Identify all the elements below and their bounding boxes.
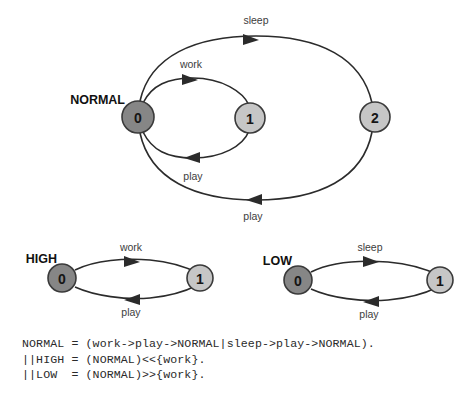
edge-label-normal-work: work [179, 58, 203, 70]
process-label-high: HIGH [26, 252, 57, 266]
arrowhead-normal-play-outer [246, 194, 262, 205]
edge-label-low-play: play [359, 308, 379, 320]
node-high-0[interactable]: 0 [48, 264, 76, 292]
edge-label-normal-sleep: sleep [243, 14, 268, 26]
diagram-normal: NORMAL work play sleep play 0 1 2 [70, 14, 390, 222]
arrowhead-normal-play-inner [184, 152, 200, 163]
node-high-1-label: 1 [196, 271, 204, 287]
node-low-1-label: 1 [436, 273, 444, 289]
node-low-0[interactable]: 0 [284, 266, 312, 294]
edge-label-high-play: play [121, 306, 141, 318]
node-normal-2-label: 2 [371, 110, 379, 126]
diagram-high: HIGH work play 0 1 [26, 241, 213, 318]
edge-normal-0-to-2-sleep [140, 36, 372, 103]
arrowhead-high-play [124, 294, 140, 305]
arrowhead-low-play [363, 296, 379, 307]
node-high-0-label: 0 [58, 271, 66, 287]
node-normal-1-label: 1 [246, 111, 254, 127]
node-normal-0[interactable]: 0 [122, 101, 154, 133]
node-low-1[interactable]: 1 [427, 267, 453, 293]
diagram-low: LOW sleep play 0 1 [263, 241, 453, 320]
node-low-0-label: 0 [294, 273, 302, 289]
node-normal-1[interactable]: 1 [235, 103, 265, 133]
fsp-code-block: NORMAL = (work->play->NORMAL|sleep->play… [22, 336, 375, 383]
arrowhead-low-sleep [363, 256, 379, 267]
edge-label-normal-play-outer: play [243, 210, 263, 222]
edge-label-low-sleep: sleep [357, 241, 382, 253]
process-label-low: LOW [263, 254, 292, 268]
node-normal-2[interactable]: 2 [360, 102, 390, 132]
edge-normal-0-to-1-work [143, 78, 249, 105]
edge-label-normal-play-inner: play [183, 170, 203, 182]
arrowhead-high-work [124, 256, 140, 267]
node-normal-0-label: 0 [134, 110, 142, 126]
process-label-normal: NORMAL [70, 93, 125, 107]
arrowhead-normal-work [182, 74, 198, 85]
edge-label-high-work: work [119, 241, 143, 253]
node-high-1[interactable]: 1 [187, 265, 213, 291]
edge-normal-2-to-0-play [140, 132, 372, 200]
